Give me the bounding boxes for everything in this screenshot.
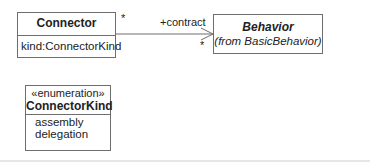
class-behavior[interactable]: Behavior (from BasicBehavior) xyxy=(213,14,323,54)
attribute-kind: kind:ConnectorKind xyxy=(21,40,121,52)
class-connector[interactable]: Connector kind:ConnectorKind xyxy=(17,12,116,58)
enumeration-header: «enumeration» ConnectorKind xyxy=(26,86,110,114)
target-multiplicity: * xyxy=(200,39,204,51)
target-role-label: +contract xyxy=(160,16,206,28)
enumeration-name: ConnectorKind xyxy=(26,99,110,113)
source-multiplicity: * xyxy=(121,12,125,24)
stereotype-label: «enumeration» xyxy=(26,87,110,99)
class-name-connector: Connector xyxy=(18,13,115,35)
literal-assembly: assembly xyxy=(35,117,110,129)
enumeration-connectorkind[interactable]: «enumeration» ConnectorKind assembly del… xyxy=(25,85,111,151)
literal-compartment: assembly delegation xyxy=(26,114,110,140)
attribute-compartment: kind:ConnectorKind xyxy=(18,35,115,58)
class-name-behavior: Behavior xyxy=(214,20,322,34)
class-origin-behavior: (from BasicBehavior) xyxy=(214,34,322,48)
bottom-divider xyxy=(0,160,370,162)
literal-delegation: delegation xyxy=(35,129,110,141)
